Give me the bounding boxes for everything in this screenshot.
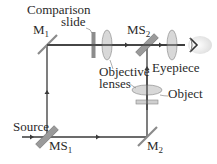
label-m2: M2 [147, 138, 163, 155]
label-slide: slide [61, 14, 86, 29]
arrow-icon [96, 135, 100, 140]
label-eyepiece: Eyepiece [152, 60, 200, 75]
label-source: Source [13, 119, 49, 134]
eye-icon [188, 36, 212, 54]
label-ms1: MS1 [49, 138, 72, 155]
label-object: Object [168, 86, 203, 101]
interference-microscope-diagram: Comparison slide M1 MS2 Objective lenses… [0, 0, 217, 164]
label-ms2: MS2 [127, 22, 150, 39]
arrow-icon [30, 135, 34, 140]
label-m1: M1 [33, 22, 49, 39]
label-lenses: lenses [99, 76, 131, 91]
arrow-icon [45, 90, 50, 94]
